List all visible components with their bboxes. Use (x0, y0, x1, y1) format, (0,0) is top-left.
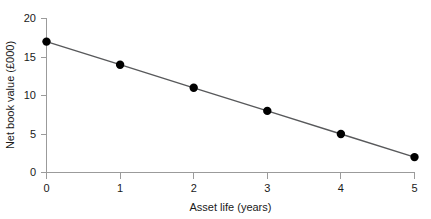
x-tick-label-2: 2 (191, 182, 197, 194)
data-point (116, 60, 124, 68)
data-point (337, 130, 345, 138)
data-point (410, 153, 418, 161)
x-axis-title: Asset life (years) (190, 201, 272, 213)
y-tick-label-5: 5 (30, 128, 36, 140)
y-tick-label-0: 0 (30, 166, 36, 178)
data-point (263, 107, 271, 115)
x-tick-label-3: 3 (264, 182, 270, 194)
data-line-net-book-value (47, 42, 415, 158)
y-tick-label-15: 15 (24, 51, 36, 63)
x-axis-ticks (47, 173, 415, 180)
data-point (190, 84, 198, 92)
x-tick-label-0: 0 (43, 182, 49, 194)
x-tick-label-5: 5 (411, 182, 417, 194)
y-tick-label-20: 20 (24, 12, 36, 24)
y-tick-label-10: 10 (24, 89, 36, 101)
data-point (42, 37, 50, 45)
x-tick-label-1: 1 (117, 182, 123, 194)
line-chart: 20 15 10 5 0 0 1 2 3 4 5 Asset life (yea… (0, 0, 431, 219)
y-axis-title: Net book value (£000) (4, 41, 16, 149)
x-tick-label-4: 4 (338, 182, 344, 194)
chart-container: 20 15 10 5 0 0 1 2 3 4 5 Asset life (yea… (0, 0, 431, 219)
